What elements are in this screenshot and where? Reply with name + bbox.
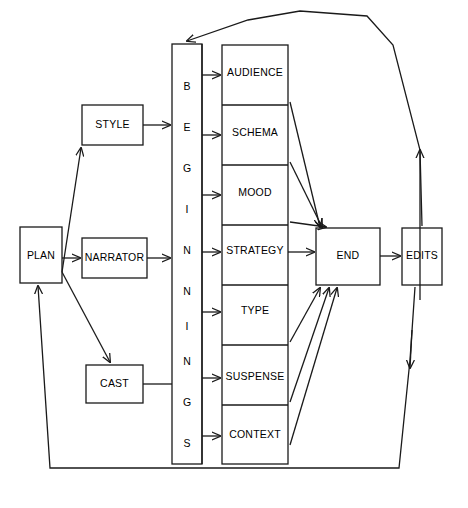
edge-type-to-end	[290, 288, 320, 342]
node-narrator[interactable]: NARRATOR	[82, 238, 147, 278]
beginnings-letter-2: G	[183, 162, 191, 174]
stack-cell-context-label: CONTEXT	[229, 428, 281, 440]
node-narrator-label: NARRATOR	[85, 251, 145, 263]
node-edits[interactable]: EDITS	[402, 228, 442, 285]
beginnings-letter-6: I	[186, 320, 189, 332]
stack-cell-audience-label: AUDIENCE	[227, 66, 283, 78]
node-style[interactable]: STYLE	[82, 105, 143, 145]
attribute-stack: AUDIENCE SCHEMA MOOD STRATEGY TYPE SUSPE…	[222, 45, 288, 464]
beginnings-letter-1: E	[183, 121, 190, 133]
beginnings-letter-5: N	[183, 285, 191, 297]
stack-cell-strategy-label: STRATEGY	[226, 244, 283, 256]
edge-plan-to-cast	[62, 272, 110, 362]
stack-cell-schema-label: SCHEMA	[232, 126, 278, 138]
stack-cell-suspense-label: SUSPENSE	[226, 370, 285, 382]
edge-context-to-end	[290, 288, 337, 445]
edge-audience-to-end	[290, 102, 320, 227]
beginnings-letter-9: S	[183, 437, 190, 449]
stack-cell-mood-label: MOOD	[238, 186, 272, 198]
beginnings-letter-3: I	[186, 203, 189, 215]
node-end-label: END	[337, 249, 360, 261]
node-edits-label: EDITS	[406, 249, 438, 261]
node-plan-label: PLAN	[27, 249, 55, 261]
beginnings-letter-4: N	[183, 244, 191, 256]
node-cast-label: CAST	[100, 377, 129, 389]
beginnings-letter-0: B	[183, 80, 190, 92]
flow-diagram: PLAN STYLE NARRATOR CAST B E G I N N I	[0, 0, 468, 508]
edge-plan-to-style	[62, 148, 81, 272]
node-style-label: STYLE	[95, 118, 129, 130]
diagram-canvas: PLAN STYLE NARRATOR CAST B E G I N N I	[0, 0, 468, 508]
stack-cell-type-label: TYPE	[241, 304, 269, 316]
node-plan[interactable]: PLAN	[20, 227, 62, 283]
node-end[interactable]: END	[316, 228, 380, 285]
node-cast[interactable]: CAST	[86, 365, 143, 403]
beginnings-letter-8: G	[183, 396, 191, 408]
edge-suspense-to-end	[290, 288, 329, 402]
node-beginnings[interactable]: B E G I N N I N G S	[172, 44, 202, 464]
beginnings-letter-7: N	[183, 355, 191, 367]
edge-schema-to-end	[290, 162, 322, 227]
